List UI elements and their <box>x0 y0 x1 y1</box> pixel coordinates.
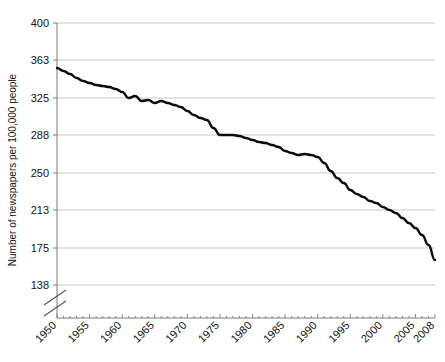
x-axis-tick-label: 1965 <box>130 319 156 345</box>
x-axis-tick-label: 1975 <box>196 319 222 345</box>
x-axis-tick-label: 1960 <box>98 319 124 345</box>
y-axis-tick-labels: 400363325288250213175138 <box>31 17 49 291</box>
x-axis-tick-label: 1970 <box>163 319 189 345</box>
y-axis-title: Number of newspapers per 100,000 people <box>7 73 18 266</box>
x-axis-tick-labels: 1950195519601965197019751980198519901995… <box>33 319 437 345</box>
x-axis-tick-label: 1995 <box>326 319 352 345</box>
y-axis-tick-label: 138 <box>31 279 49 291</box>
y-axis-tick-label: 325 <box>31 92 49 104</box>
y-axis-tick-label: 213 <box>31 204 49 216</box>
y-axis-tick-label: 288 <box>31 129 49 141</box>
y-axis-tick-label: 400 <box>31 17 49 29</box>
x-axis-tick-label: 1950 <box>33 319 59 345</box>
x-axis-tick-label: 2005 <box>391 319 417 345</box>
x-axis-tick-label: 1980 <box>228 319 254 345</box>
y-axis-tick-label: 250 <box>31 167 49 179</box>
y-axis-tick-label: 363 <box>31 54 49 66</box>
chart-canvas: 400363325288250213175138 195019551960196… <box>0 0 445 362</box>
axis-break-icon <box>44 290 66 316</box>
x-axis-tick-label: 1990 <box>293 319 319 345</box>
y-tick-group <box>53 23 57 285</box>
x-minor-tick-group <box>57 314 435 318</box>
line-chart: 400363325288250213175138 195019551960196… <box>0 0 445 362</box>
gridline-group <box>57 23 435 285</box>
data-series-line <box>57 68 435 260</box>
x-axis-tick-label: 1955 <box>65 319 91 345</box>
x-axis-tick-label: 1985 <box>261 319 287 345</box>
x-axis-tick-label: 2000 <box>358 319 384 345</box>
x-axis-tick-label: 2008 <box>411 319 437 345</box>
y-axis-tick-label: 175 <box>31 242 49 254</box>
